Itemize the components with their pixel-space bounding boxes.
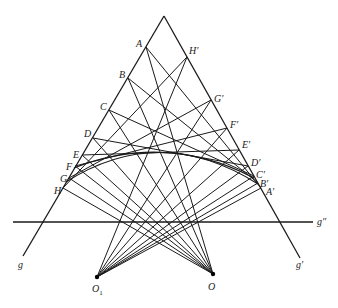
label-line-g-prime: g′ — [296, 259, 304, 270]
label-point-E: E — [72, 149, 79, 160]
ray-B′-to-O1 — [97, 183, 258, 277]
label-point-C: C — [100, 101, 107, 112]
projective-conic-diagram: ABCDEFGHH′G′F′E′D′C′B′A′gg′g″O1O — [0, 0, 338, 308]
ray-A′-to-O1 — [97, 188, 261, 277]
ray-H-to-O — [63, 188, 213, 274]
pair-line-A — [146, 47, 261, 188]
main-lines — [13, 16, 313, 258]
label-point-H: H — [53, 185, 62, 196]
line-g — [23, 16, 164, 256]
label-point-B: B — [119, 69, 125, 80]
label-line-g-double-prime: g″ — [317, 216, 327, 227]
center-points — [95, 272, 215, 279]
label-point-G: G — [60, 173, 67, 184]
ray-A-to-O — [146, 47, 213, 274]
label-point-A: A — [135, 38, 143, 49]
label-point-D: D — [83, 128, 92, 139]
label-point-G-prime: G′ — [214, 93, 224, 104]
point-labels: ABCDEFGHH′G′F′E′D′C′B′A′gg′g″O1O — [18, 38, 327, 297]
label-point-D-prime: D′ — [250, 157, 261, 168]
label-point-F: F — [65, 161, 73, 172]
ray-C′-to-O1 — [97, 176, 254, 277]
label-point-F-prime: F′ — [229, 119, 239, 130]
label-line-g: g — [18, 259, 23, 270]
conic-arc-1 — [74, 152, 254, 178]
center-point-O1 — [95, 275, 99, 279]
label-point-H-prime: H′ — [188, 45, 199, 56]
label-point-A-prime: A′ — [265, 186, 275, 197]
label-center-O: O — [208, 281, 215, 292]
pair-line-G — [69, 100, 211, 178]
center-point-O — [211, 272, 215, 276]
label-point-E-prime: E′ — [241, 139, 251, 150]
ray-G′-to-O1 — [97, 100, 211, 277]
ray-F-to-O — [75, 166, 213, 274]
label-center-O1: O1 — [92, 283, 103, 297]
